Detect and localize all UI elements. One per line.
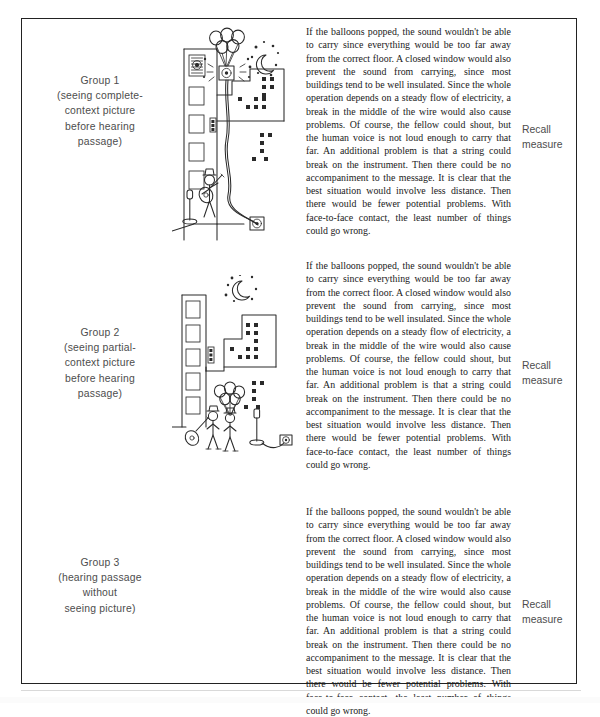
group-label-3-sub-3: seeing picture)	[26, 601, 174, 616]
group-label-1-sub-1: (seeing complete-	[26, 88, 174, 103]
group-label-2-title: Group 2	[26, 325, 174, 340]
stars	[249, 41, 280, 76]
passage-text-2: If the balloons popped, the sound wouldn…	[306, 259, 511, 471]
group-label-2: Group 2 (seeing partial- context picture…	[26, 325, 174, 401]
microphone-stand	[250, 409, 264, 445]
group-label-3-title: Group 3	[26, 555, 174, 570]
group-label-3: Group 3 (hearing passage without seeing …	[26, 555, 174, 616]
figure-frame: Group 1 (seeing complete- context pictur…	[21, 18, 577, 684]
figure-row-group-2: Group 2 (seeing partial- context picture…	[22, 257, 576, 493]
microphone-stand	[183, 190, 197, 224]
recall-measure-2: Recall measure	[522, 359, 576, 388]
group-label-2-sub-4: passage)	[26, 386, 174, 401]
group-label-2-sub-2: context picture	[26, 355, 174, 370]
recall-measure-3-line2: measure	[522, 613, 576, 628]
group-label-1-sub-3: before hearing	[26, 119, 174, 134]
ground-speaker	[280, 435, 292, 445]
recall-measure-1-line1: Recall	[522, 123, 576, 138]
group-label-2-sub-1: (seeing partial-	[26, 340, 174, 355]
moon-icon	[233, 281, 250, 300]
passage-text-1: If the balloons popped, the sound wouldn…	[306, 25, 511, 237]
group-label-2-sub-3: before hearing	[26, 371, 174, 386]
figure-row-group-1: Group 1 (seeing complete- context pictur…	[22, 19, 576, 257]
person-right	[223, 408, 238, 451]
figure-row-group-3: Group 3 (hearing passage without seeing …	[22, 493, 576, 685]
person-left	[206, 406, 221, 449]
group-label-1-sub-4: passage)	[26, 134, 174, 149]
scan-artifact-band	[0, 697, 600, 703]
group-label-3-sub-1: (hearing passage	[26, 570, 174, 585]
moon-icon	[257, 55, 274, 74]
recall-measure-2-line2: measure	[522, 374, 576, 389]
balloons	[210, 28, 245, 66]
group-label-1-title: Group 1	[26, 73, 174, 88]
stars	[225, 275, 258, 302]
complete-context-picture	[172, 25, 300, 253]
group-label-1-sub-2: context picture	[26, 103, 174, 118]
scan-artifact-line	[21, 690, 581, 691]
ground-amplifier	[250, 217, 264, 230]
recall-measure-2-line1: Recall	[522, 359, 576, 374]
recall-measure-3: Recall measure	[522, 598, 576, 627]
recall-measure-1-line2: measure	[522, 138, 576, 153]
passage-text-3: If the balloons popped, the sound wouldn…	[306, 505, 511, 717]
man-with-guitar	[197, 169, 224, 217]
group-label-3-sub-2: without	[26, 585, 174, 600]
group-label-1: Group 1 (seeing complete- context pictur…	[26, 73, 174, 149]
partial-context-picture	[172, 275, 300, 480]
balloons	[214, 382, 244, 415]
recall-measure-1: Recall measure	[522, 123, 576, 152]
recall-measure-3-line1: Recall	[522, 598, 576, 613]
